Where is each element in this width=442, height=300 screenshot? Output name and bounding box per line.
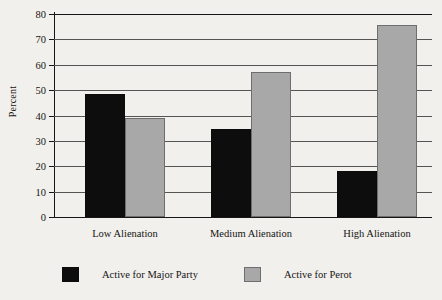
x-axis-label-1: Medium Alienation [181,228,321,239]
legend-label-major-party: Active for Major Party [102,269,198,280]
x-axis-label-2: High Alienation [307,228,442,239]
y-tick-60 [49,65,54,66]
y-tick-0 [49,217,54,218]
bar-perot-2 [377,25,417,217]
y-tick-70 [49,39,54,40]
legend-item-perot: Active for Perot [244,264,352,284]
y-tick-label-60: 60 [36,59,47,70]
y-tick-40 [49,116,54,117]
bar-chart-figure: Percent 01020304050607080 Active for Maj… [0,0,442,300]
plot-area: 01020304050607080 [54,14,432,217]
y-tick-10 [49,192,54,193]
y-tick-label-30: 30 [36,135,47,146]
legend-swatch-perot-icon [244,267,261,282]
chart-legend: Active for Major Party Active for Perot [0,264,442,290]
y-tick-label-0: 0 [41,212,46,223]
gridline-80 [54,14,432,15]
y-tick-label-10: 10 [36,186,47,197]
bar-perot-0 [125,118,165,217]
legend-swatch-major-party-icon [62,267,79,282]
gridline-70 [54,39,432,40]
bar-perot-1 [251,72,291,217]
x-axis-label-0: Low Alienation [55,228,195,239]
y-tick-20 [49,166,54,167]
gridline-50 [54,90,432,91]
legend-label-perot: Active for Perot [284,269,352,280]
y-tick-label-40: 40 [36,110,47,121]
y-tick-label-20: 20 [36,161,47,172]
gridline-0 [54,217,432,218]
y-axis-title: Percent [7,72,18,132]
y-tick-80 [49,14,54,15]
bar-major-party-1 [211,129,251,217]
y-axis-line [54,12,55,217]
y-tick-label-70: 70 [36,34,47,45]
y-tick-30 [49,141,54,142]
y-tick-label-80: 80 [36,9,47,20]
gridline-60 [54,65,432,66]
bar-major-party-0 [85,94,125,217]
legend-item-major-party: Active for Major Party [62,264,198,284]
y-tick-label-50: 50 [36,85,47,96]
y-tick-50 [49,90,54,91]
bar-major-party-2 [337,171,377,217]
